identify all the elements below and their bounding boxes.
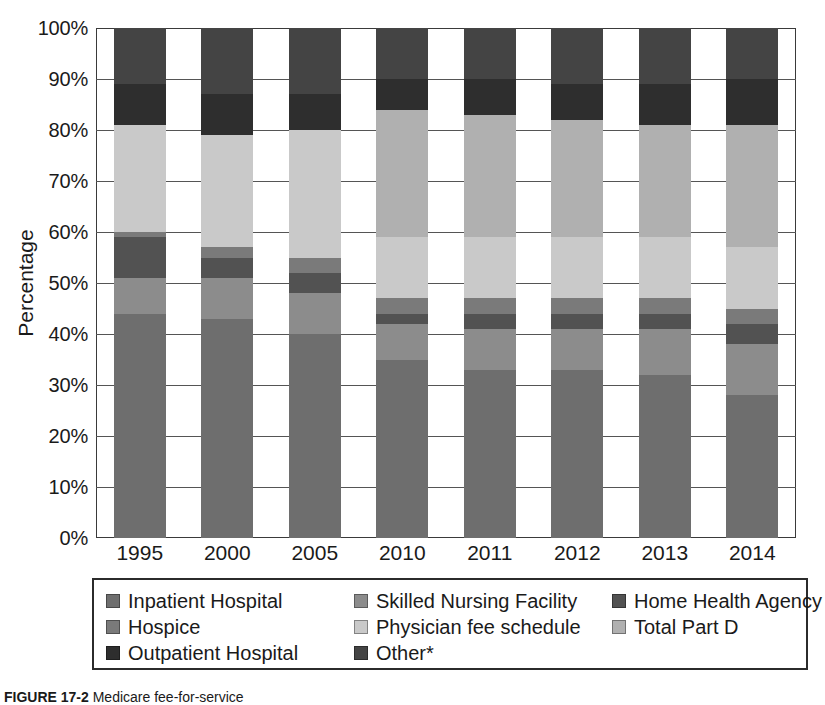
bar-segment[interactable] xyxy=(639,28,691,84)
legend-item[interactable]: Total Part D xyxy=(612,614,822,640)
bar-segment[interactable] xyxy=(726,28,778,79)
bar-segment[interactable] xyxy=(464,28,516,79)
bar-segment[interactable] xyxy=(289,258,341,273)
legend-swatch-icon xyxy=(106,646,120,660)
bar-segment[interactable] xyxy=(464,370,516,538)
bar-segment[interactable] xyxy=(551,370,603,538)
legend-item[interactable]: Skilled Nursing Facility xyxy=(354,588,612,614)
bar-column[interactable] xyxy=(639,28,691,538)
y-axis-tick-label: 20% xyxy=(49,425,88,448)
legend-item-label: Total Part D xyxy=(634,617,738,637)
bar-segment[interactable] xyxy=(201,247,253,257)
bar-segment[interactable] xyxy=(551,237,603,298)
x-axis-tick-label: 2012 xyxy=(554,541,601,565)
legend-swatch-icon xyxy=(106,594,120,608)
bar-segment[interactable] xyxy=(726,125,778,247)
legend-swatch-icon xyxy=(354,620,368,634)
bar-segment[interactable] xyxy=(289,28,341,94)
bar-segment[interactable] xyxy=(551,298,603,313)
bar-segment[interactable] xyxy=(376,314,428,324)
bar-segment[interactable] xyxy=(726,324,778,344)
bar-segment[interactable] xyxy=(639,314,691,329)
bar-segment[interactable] xyxy=(726,309,778,324)
bar-segment[interactable] xyxy=(114,84,166,125)
bar-column[interactable] xyxy=(201,28,253,538)
bar-segment[interactable] xyxy=(114,237,166,278)
legend-item[interactable]: Other* xyxy=(354,640,612,666)
bar-segment[interactable] xyxy=(464,314,516,329)
bar-segment[interactable] xyxy=(201,28,253,94)
legend-swatch-icon xyxy=(106,620,120,634)
bar-segment[interactable] xyxy=(639,125,691,237)
bar-segment[interactable] xyxy=(551,329,603,370)
y-axis-tick-label: 100% xyxy=(38,17,88,40)
bar-segment[interactable] xyxy=(114,278,166,314)
bar-segment[interactable] xyxy=(376,298,428,313)
bar-segment[interactable] xyxy=(114,314,166,538)
y-axis-tick-label: 30% xyxy=(49,374,88,397)
bar-segment[interactable] xyxy=(639,375,691,538)
bar-column[interactable] xyxy=(376,28,428,538)
bar-segment[interactable] xyxy=(639,298,691,313)
bar-segment[interactable] xyxy=(201,94,253,135)
bar-segment[interactable] xyxy=(289,334,341,538)
bar-column[interactable] xyxy=(551,28,603,538)
legend-swatch-icon xyxy=(354,594,368,608)
bar-segment[interactable] xyxy=(289,94,341,130)
bar-segment[interactable] xyxy=(639,237,691,298)
bar-segment[interactable] xyxy=(464,298,516,313)
bar-column[interactable] xyxy=(289,28,341,538)
bar-segment[interactable] xyxy=(464,237,516,298)
bar-segment[interactable] xyxy=(376,110,428,238)
bar-segment[interactable] xyxy=(464,329,516,370)
bar-segment[interactable] xyxy=(551,28,603,84)
bar-segment[interactable] xyxy=(376,360,428,539)
bar-segment[interactable] xyxy=(726,79,778,125)
legend-item[interactable]: Outpatient Hospital xyxy=(106,640,354,666)
plot-area xyxy=(96,28,796,538)
legend-item-label: Home Health Agency xyxy=(634,591,822,611)
y-axis-tick-label: 0% xyxy=(59,527,88,550)
bar-column[interactable] xyxy=(464,28,516,538)
legend-item[interactable]: Inpatient Hospital xyxy=(106,588,354,614)
legend-item-label: Other* xyxy=(376,643,434,663)
bar-segment[interactable] xyxy=(639,329,691,375)
bar-segment[interactable] xyxy=(551,120,603,237)
bar-column[interactable] xyxy=(114,28,166,538)
bar-segment[interactable] xyxy=(376,79,428,110)
bar-segment[interactable] xyxy=(726,395,778,538)
bar-segment[interactable] xyxy=(289,293,341,334)
bar-segment[interactable] xyxy=(551,84,603,120)
bar-segment[interactable] xyxy=(289,273,341,293)
bar-segment[interactable] xyxy=(464,115,516,237)
bar-segment[interactable] xyxy=(376,28,428,79)
legend-item[interactable]: Home Health Agency xyxy=(612,588,822,614)
x-axis-tick-label: 2000 xyxy=(204,541,251,565)
y-axis-tick-label: 70% xyxy=(49,170,88,193)
bar-segment[interactable] xyxy=(376,237,428,298)
bar-segment[interactable] xyxy=(376,324,428,360)
legend-item[interactable]: Physician fee schedule xyxy=(354,614,612,640)
bar-segment[interactable] xyxy=(639,84,691,125)
legend-swatch-icon xyxy=(354,646,368,660)
bar-segment[interactable] xyxy=(114,125,166,232)
bar-segment[interactable] xyxy=(201,319,253,538)
bar-segment[interactable] xyxy=(114,28,166,84)
bar-segment[interactable] xyxy=(464,79,516,115)
bar-segment[interactable] xyxy=(201,278,253,319)
bar-segment[interactable] xyxy=(114,232,166,237)
bar-segment[interactable] xyxy=(201,258,253,278)
bar-segment[interactable] xyxy=(289,130,341,258)
x-axis-tick-label: 2014 xyxy=(729,541,776,565)
x-axis-tick-label: 1995 xyxy=(116,541,163,565)
bar-segment[interactable] xyxy=(551,314,603,329)
legend-swatch-icon xyxy=(612,594,626,608)
legend-item-label: Inpatient Hospital xyxy=(128,591,283,611)
legend-item-label: Physician fee schedule xyxy=(376,617,581,637)
legend-item[interactable]: Hospice xyxy=(106,614,354,640)
bar-segment[interactable] xyxy=(201,135,253,247)
bar-segment[interactable] xyxy=(726,247,778,308)
bar-column[interactable] xyxy=(726,28,778,538)
bar-segment[interactable] xyxy=(726,344,778,395)
x-axis-tick-label: 2005 xyxy=(291,541,338,565)
